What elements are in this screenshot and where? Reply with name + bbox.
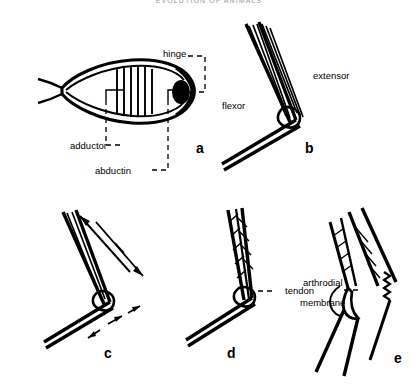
figure-artwork xyxy=(0,0,418,387)
adductor-bracket xyxy=(106,90,124,100)
panel-a-artwork xyxy=(38,56,205,170)
abductin-pad xyxy=(172,80,190,104)
panel-e-segment-distal-right xyxy=(344,318,358,376)
shell-tip-upper xyxy=(38,79,62,88)
panel-c-segment-lower-bottom xyxy=(46,308,113,348)
panel-letter-a: a xyxy=(196,140,204,156)
panel-c-artwork xyxy=(44,210,143,348)
panel-b-artwork xyxy=(222,22,303,170)
panel-c-segment-lower-top xyxy=(44,302,110,342)
shell-tip-lower xyxy=(38,94,62,103)
panel-e-artwork xyxy=(316,208,396,376)
panel-letter-b: b xyxy=(305,140,314,156)
panel-c-tick xyxy=(115,243,124,253)
label-extensor: extensor xyxy=(313,70,349,81)
panel-e-segment-distal-outer xyxy=(370,300,390,360)
arthrodial-membrane-right xyxy=(384,272,390,300)
label-arthrodial: arthrodial xyxy=(303,277,343,288)
figure-page: EVOLUTION OF ANIMALS xyxy=(0,0,418,387)
label-hinge: hinge xyxy=(163,48,186,59)
panel-d-segment-lower-top xyxy=(186,298,252,340)
adductor-muscle-fibres xyxy=(117,66,152,117)
label-flexor: flexor xyxy=(222,100,245,111)
shell-lower-inner xyxy=(66,92,184,116)
panel-d-artwork xyxy=(186,208,276,346)
panel-letter-e: e xyxy=(394,350,402,366)
panel-letter-d: d xyxy=(227,345,236,361)
panel-b-segment-upper-right xyxy=(259,22,296,120)
panel-d-segment-lower-bottom xyxy=(188,304,255,346)
label-abductin: abductin xyxy=(95,165,131,176)
abductin-leader xyxy=(152,100,168,170)
panel-letter-c: c xyxy=(104,345,112,361)
label-adductor: adductor xyxy=(70,140,107,151)
panel-e-segment-right-outer xyxy=(362,208,396,282)
label-membrane: membrane xyxy=(300,297,345,308)
arthrodial-membrane-left xyxy=(343,288,358,319)
panel-b-segment-lower-bottom xyxy=(224,126,300,170)
shell-upper-inner xyxy=(66,66,184,90)
panel-e-segment-distal-left xyxy=(316,310,344,372)
